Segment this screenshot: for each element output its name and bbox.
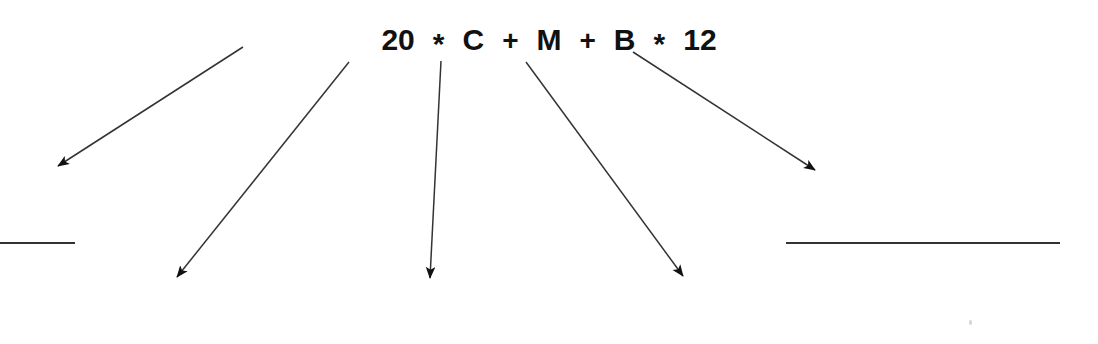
formula-token-plus-first: + [493, 23, 527, 59]
formula-expression: 20*C+M+B*12 [0, 22, 1098, 59]
arrow-group [58, 47, 815, 278]
formula-token-c: C [453, 22, 493, 58]
arrow-from-c [177, 62, 349, 277]
formula-token-b: B [605, 22, 645, 58]
formula-token-12: 12 [674, 22, 725, 58]
arrow-from-20 [58, 47, 243, 166]
speck-lower-right [969, 320, 972, 325]
arrow-from-12 [633, 52, 815, 170]
arrow-from-m [430, 61, 441, 278]
formula-token-multiply-left: * [424, 26, 454, 62]
arrow-from-b [526, 62, 683, 276]
formula-token-plus-second: + [571, 23, 605, 59]
formula-annotation-figure: 20*C+M+B*12 [0, 0, 1098, 344]
formula-token-m: M [528, 22, 571, 58]
formula-token-multiply-right: * [645, 26, 675, 62]
formula-token-20: 20 [372, 22, 423, 58]
